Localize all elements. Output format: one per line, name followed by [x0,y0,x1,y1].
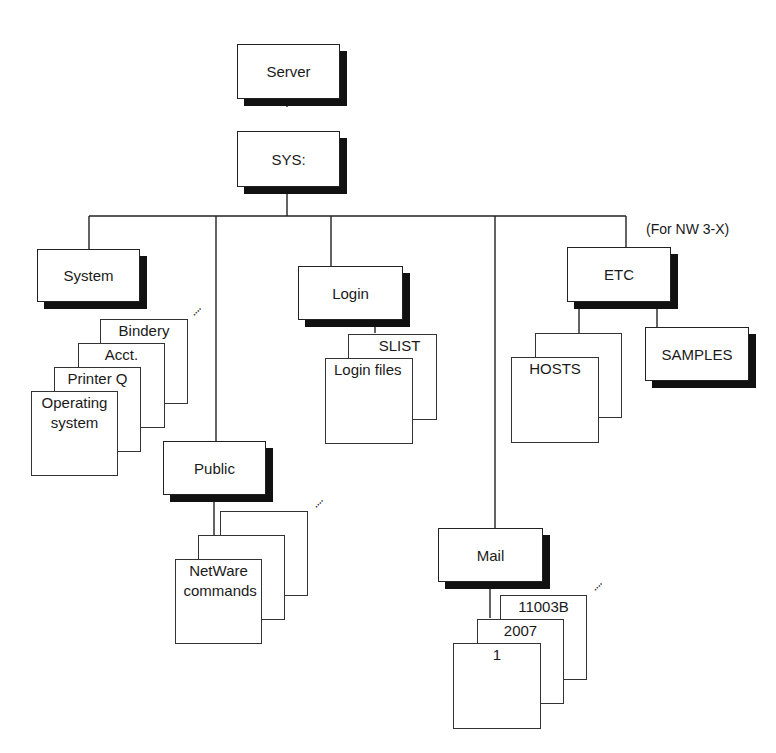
file-label: NetWare commands [184,561,254,601]
file-hosts[interactable]: HOSTS [511,357,599,443]
samples-dir-node[interactable]: SAMPLES [645,327,749,381]
version-note: (For NW 3-X) [646,221,729,237]
file-label: HOSTS [529,360,581,377]
public-label: Public [194,460,235,477]
mail-dir-node[interactable]: Mail [438,528,543,582]
file-label: 2007 [504,622,537,639]
system-dir-node[interactable]: System [37,249,140,302]
login-dir-node[interactable]: Login [298,266,403,320]
sys-volume-node[interactable]: SYS: [237,131,340,187]
file-label: Printer Q [67,370,127,387]
system-label: System [63,267,113,284]
server-node[interactable]: Server [237,44,340,99]
etc-label: ETC [604,266,634,283]
file-1[interactable]: 1 [453,643,541,729]
file-label: SLIST [365,337,421,354]
login-label: Login [332,285,369,302]
file-label: Operating system [40,393,110,433]
file-netware-commands[interactable]: NetWare commands [175,559,262,644]
mail-label: Mail [477,547,505,564]
file-operating-system[interactable]: Operating system [31,391,118,476]
public-dir-node[interactable]: Public [163,441,266,495]
server-label: Server [266,63,310,80]
sys-label: SYS: [271,151,305,168]
file-label: Bindery [119,322,170,339]
file-label: 1 [493,646,501,663]
samples-label: SAMPLES [662,346,733,363]
file-label: Acct. [105,346,138,363]
etc-dir-node[interactable]: ETC [567,247,671,302]
file-label: Login files [334,361,402,378]
file-login-files[interactable]: Login files [325,358,413,444]
file-label: 11003B [518,598,569,615]
